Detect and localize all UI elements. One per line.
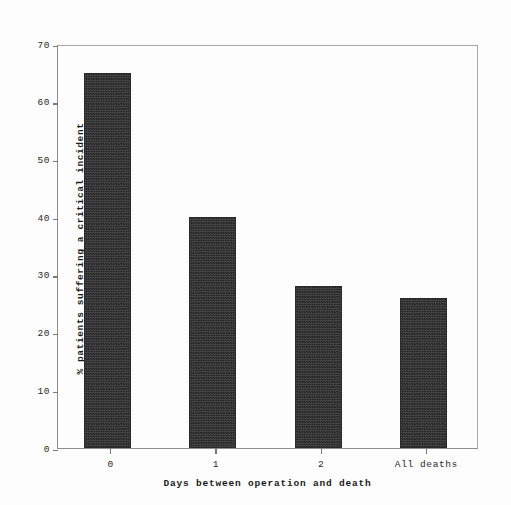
y-tick-label: 50 (38, 155, 50, 166)
y-tick-mark (53, 450, 58, 451)
y-tick-label: 10 (38, 386, 50, 397)
y-tick-label: 40 (38, 213, 50, 224)
x-tick-label: 2 (318, 459, 324, 470)
y-tick-mark (53, 161, 58, 162)
y-tick-label: 60 (38, 97, 50, 108)
bar-1 (189, 217, 236, 448)
bar-0 (84, 73, 131, 448)
y-tick-label: 0 (44, 444, 50, 455)
x-tick-label: All deaths (395, 459, 458, 470)
chart-screenshot: % patients suffering a critical incident… (0, 0, 511, 505)
x-tick-mark (321, 448, 322, 454)
x-axis-title: Days between operation and death (57, 478, 478, 489)
y-tick-mark (53, 219, 58, 220)
plot-area: % patients suffering a critical incident… (57, 45, 478, 449)
x-tick-mark (215, 448, 216, 454)
y-tick-mark (53, 334, 58, 335)
y-tick-mark (53, 276, 58, 277)
bar-all-deaths (400, 298, 447, 448)
y-tick-label: 70 (38, 40, 50, 51)
bar-2 (295, 286, 342, 448)
y-tick-mark (53, 103, 58, 104)
y-tick-label: 20 (38, 328, 50, 339)
x-tick-mark (426, 448, 427, 454)
x-tick-label: 1 (213, 459, 219, 470)
x-tick-label: 0 (107, 459, 113, 470)
x-tick-mark (110, 448, 111, 454)
y-tick-mark (53, 46, 58, 47)
y-tick-label: 30 (38, 270, 50, 281)
y-tick-mark (53, 392, 58, 393)
